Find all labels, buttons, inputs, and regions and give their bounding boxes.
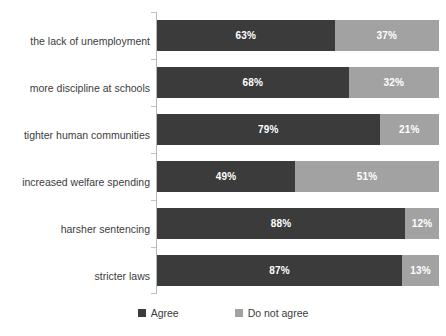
bar-segment-agree: 49% (157, 161, 295, 192)
bar-value-label: 63% (236, 31, 257, 41)
category-label-4: harsher sentencing (4, 224, 150, 235)
bar-value-label: 49% (216, 172, 237, 182)
bar-segment-agree: 87% (157, 255, 402, 286)
square-marker-icon (138, 309, 146, 317)
axis-tick (151, 12, 156, 13)
bar-value-label: 21% (399, 125, 420, 135)
square-marker-icon (235, 309, 243, 317)
bar-segment-agree: 68% (157, 67, 349, 98)
bar-row: 87% 13% (157, 255, 439, 286)
bar-segment-disagree: 37% (335, 20, 439, 51)
bar-segment-disagree: 32% (349, 67, 439, 98)
stacked-bar-chart: the lack of unemployment more discipline… (0, 0, 446, 336)
axis-tick (151, 200, 156, 201)
category-axis-labels: the lack of unemployment more discipline… (0, 12, 150, 294)
category-label-0: the lack of unemployment (4, 36, 150, 47)
bar-row: 49% 51% (157, 161, 439, 192)
bar-row: 63% 37% (157, 20, 439, 51)
bar-row: 88% 12% (157, 208, 439, 239)
axis-tick (151, 247, 156, 248)
bar-value-label: 87% (269, 266, 290, 276)
legend-item-do-not-agree: Do not agree (235, 308, 309, 319)
legend-label-agree: Agree (151, 308, 179, 319)
bar-row: 79% 21% (157, 114, 439, 145)
bar-value-label: 88% (271, 219, 292, 229)
bar-value-label: 12% (412, 219, 433, 229)
bar-segment-agree: 79% (157, 114, 380, 145)
bar-segment-disagree: 12% (405, 208, 439, 239)
bar-segment-agree: 88% (157, 208, 405, 239)
bar-segment-disagree: 13% (402, 255, 439, 286)
category-label-5: stricter laws (4, 271, 150, 282)
bar-segment-disagree: 21% (380, 114, 439, 145)
bar-value-label: 79% (258, 125, 279, 135)
category-label-1: more discipline at schools (4, 83, 150, 94)
category-label-2: tighter human communities (4, 130, 150, 141)
axis-tick (151, 59, 156, 60)
plot-area: 63% 37% 68% 32% 79% 21% 49% (157, 12, 439, 294)
axis-tick (151, 106, 156, 107)
chart-legend: Agree Do not agree (0, 308, 446, 319)
axis-tick (151, 293, 156, 294)
bar-segment-agree: 63% (157, 20, 335, 51)
bar-value-label: 37% (377, 31, 398, 41)
bar-value-label: 68% (243, 78, 264, 88)
bar-value-label: 51% (357, 172, 378, 182)
legend-item-agree: Agree (138, 308, 179, 319)
legend-label-do-not-agree: Do not agree (248, 308, 309, 319)
bar-row: 68% 32% (157, 67, 439, 98)
category-label-3: increased welfare spending (4, 177, 150, 188)
bar-value-label: 13% (410, 266, 431, 276)
bar-segment-disagree: 51% (295, 161, 439, 192)
axis-tick (151, 153, 156, 154)
bar-value-label: 32% (384, 78, 405, 88)
